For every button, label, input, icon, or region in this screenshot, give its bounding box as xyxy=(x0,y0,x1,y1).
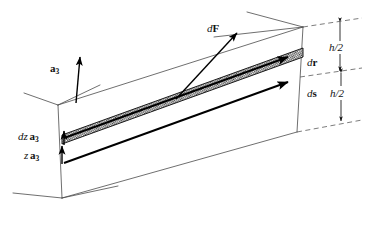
beam-element-diagram: a3 dF dr ds dza3 za3 h/2 h/2 xyxy=(0,0,372,229)
dr-vector xyxy=(64,57,288,138)
a3-vector xyxy=(76,57,80,103)
dz-a3-label: dza3 xyxy=(18,130,39,144)
corner-mark-top-left-back xyxy=(24,93,58,105)
ds-label: ds xyxy=(307,87,318,99)
dF-force-label: dF xyxy=(207,22,220,34)
corner-mark-bottom-left-front xyxy=(62,186,118,198)
z-a3-label: za3 xyxy=(23,149,39,163)
a3-basis-vector-label: a3 xyxy=(50,62,60,76)
corner-mark-top-right-back xyxy=(247,12,303,27)
ext-line-mid xyxy=(300,68,362,77)
corner-mark-bottom-left-back xyxy=(13,193,62,198)
corner-mark-top-right-front xyxy=(214,27,303,37)
dr-label: dr xyxy=(307,56,318,68)
ext-line-top xyxy=(303,18,362,27)
upper-half-height-label: h/2 xyxy=(329,41,344,53)
dr-arrow xyxy=(64,57,288,138)
prism-right-edge xyxy=(297,27,303,132)
a3-arrow xyxy=(76,57,80,103)
prism-bottom-front-edge xyxy=(62,132,297,198)
lower-half-height-label: h/2 xyxy=(330,87,345,99)
corner-mark-top-left-front xyxy=(58,85,100,105)
figure-root: a3 dF dr ds dza3 za3 h/2 h/2 xyxy=(0,0,372,229)
dimension-apparatus xyxy=(297,18,362,132)
ext-line-bottom xyxy=(297,120,362,132)
